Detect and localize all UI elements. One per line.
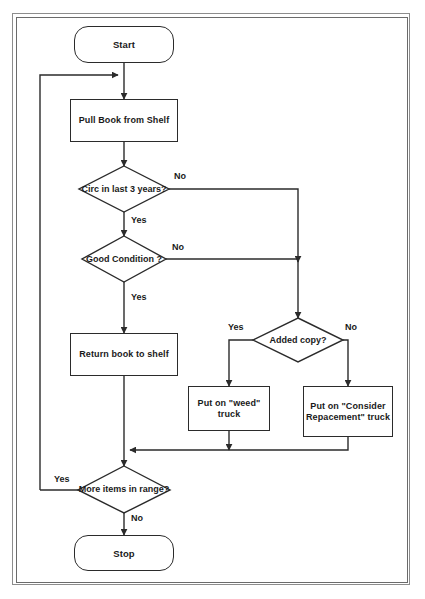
- edge-added-yes: [229, 340, 253, 386]
- node-return-book[interactable]: Return book to shelf: [70, 333, 178, 376]
- edge-label-circ-yes: Yes: [131, 215, 147, 225]
- flowchart-connectors: [0, 0, 425, 599]
- node-added-copy-decision-label: Added copy?: [253, 318, 343, 362]
- node-pull-book-label: Pull Book from Shelf: [79, 115, 170, 126]
- edge-label-added-yes: Yes: [228, 322, 244, 332]
- edge-circ-no: [169, 189, 298, 262]
- node-circ-decision[interactable]: Circ in last 3 years?: [79, 166, 169, 212]
- node-start-label: Start: [113, 39, 135, 50]
- edge-label-more-yes: Yes: [54, 474, 70, 484]
- edge-label-circ-no: No: [174, 171, 186, 181]
- node-added-copy-decision[interactable]: Added copy?: [253, 318, 343, 362]
- node-consider-truck[interactable]: Put on "Consider Repacement" truck: [303, 386, 393, 437]
- node-more-items-decision[interactable]: More items in range?: [78, 466, 170, 513]
- node-condition-decision-label: Good Condition ?: [82, 236, 166, 282]
- edge-label-condition-no: No: [172, 242, 184, 252]
- node-circ-decision-label: Circ in last 3 years?: [79, 166, 169, 212]
- node-condition-decision[interactable]: Good Condition ?: [82, 236, 166, 282]
- edge-label-added-no: No: [345, 322, 357, 332]
- edge-label-condition-yes: Yes: [131, 292, 147, 302]
- edge-added-no: [343, 340, 348, 386]
- edge-consider-merge: [130, 437, 348, 450]
- node-return-book-label: Return book to shelf: [79, 349, 169, 360]
- flowchart-page: Start Pull Book from Shelf Circ in last …: [0, 0, 425, 599]
- node-weed-truck[interactable]: Put on "weed" truck: [188, 386, 270, 431]
- node-more-items-decision-label: More items in range?: [78, 466, 170, 513]
- node-start[interactable]: Start: [74, 26, 174, 63]
- node-consider-truck-label: Put on "Consider Repacement" truck: [304, 401, 392, 423]
- edge-label-more-no: No: [131, 513, 143, 523]
- node-weed-truck-label: Put on "weed" truck: [189, 398, 269, 420]
- node-stop-label: Stop: [113, 548, 135, 559]
- node-stop[interactable]: Stop: [74, 535, 174, 571]
- node-pull-book[interactable]: Pull Book from Shelf: [70, 99, 178, 142]
